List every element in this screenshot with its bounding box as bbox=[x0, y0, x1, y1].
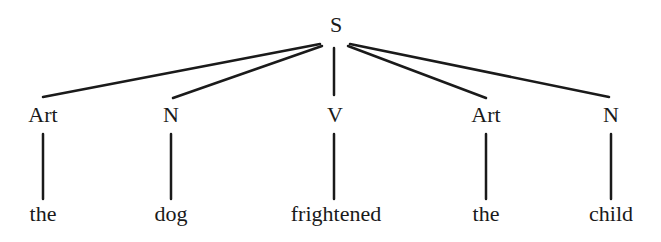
node-n-1: N bbox=[163, 104, 179, 126]
edge-s-n1 bbox=[173, 46, 322, 98]
node-art-1: Art bbox=[28, 104, 57, 126]
node-v: V bbox=[327, 104, 343, 126]
edge-s-art1 bbox=[43, 44, 320, 97]
word-dog: dog bbox=[155, 203, 188, 225]
node-s: S bbox=[330, 14, 342, 36]
node-art-2: Art bbox=[471, 104, 500, 126]
edge-s-art2 bbox=[348, 46, 486, 98]
word-the-2: the bbox=[473, 203, 500, 225]
word-the-1: the bbox=[30, 203, 57, 225]
word-child: child bbox=[589, 203, 633, 225]
word-frightened: frightened bbox=[291, 203, 381, 225]
node-n-2: N bbox=[603, 104, 619, 126]
edge-s-n2 bbox=[350, 44, 609, 97]
